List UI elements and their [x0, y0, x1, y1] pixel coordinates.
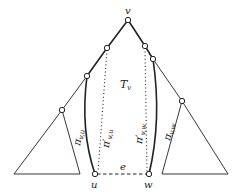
label-e: e — [120, 161, 126, 172]
node-u — [92, 171, 97, 176]
label-u: u — [91, 179, 97, 190]
node-left-apex — [59, 107, 64, 112]
left-curve-path — [85, 76, 95, 174]
node-right-1 — [142, 43, 147, 48]
left-branch-line — [62, 76, 87, 110]
right-branch-line — [153, 59, 182, 101]
right-bold-path — [128, 20, 153, 59]
node-right-2 — [150, 56, 155, 61]
label-pi-vu: πv,u — [71, 128, 87, 148]
node-left-2 — [84, 73, 89, 78]
right-dotted-path — [145, 48, 147, 172]
right-curve-path — [149, 59, 157, 174]
left-subtree-triangle — [14, 110, 80, 174]
node-w — [146, 171, 151, 176]
label-v: v — [125, 5, 131, 16]
label-pi-prime-vu: π′v,u — [100, 128, 115, 149]
node-v — [125, 17, 130, 22]
label-pi-prime-vw: π′v,w — [133, 123, 148, 145]
node-right-apex — [179, 98, 184, 103]
label-subtree-T: Tv — [120, 78, 131, 92]
node-left-1 — [104, 45, 109, 50]
label-pi-vw: πv,w — [161, 121, 178, 143]
left-dotted-path — [98, 50, 107, 172]
label-w: w — [144, 179, 153, 190]
tree-diagram: v u w e Tv πv,u π′v,u π′v,w πv,w — [0, 0, 238, 196]
